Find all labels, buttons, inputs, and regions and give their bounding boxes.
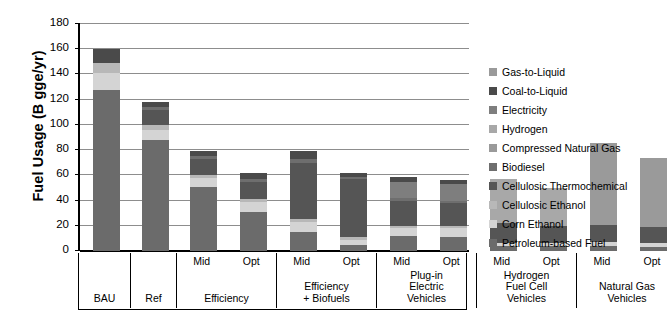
- legend-item-hydrogen[interactable]: Hydrogen: [489, 119, 637, 138]
- x-scenario-label-mid: Mid: [393, 256, 410, 267]
- bar-segment-coal-to-liquid: [93, 49, 120, 63]
- y-tick-mark: [75, 124, 80, 125]
- legend: Gas-to-LiquidCoal-to-LiquidElectricityHy…: [489, 62, 637, 252]
- bar-segment-cellulosic-ethanol: [142, 125, 169, 130]
- legend-swatch-icon: [489, 220, 497, 228]
- x-group-label-line: Ref: [131, 293, 176, 305]
- x-group-label-line: Vehicles: [377, 293, 476, 305]
- bar-segment-corn-ethanol: [93, 73, 120, 89]
- x-scenario-label-mid: Mid: [493, 256, 510, 267]
- bar-segment-petroleum-based-fuel: [190, 187, 217, 251]
- bar-segment-corn-ethanol: [390, 228, 417, 236]
- x-scenario-label-mid: Mid: [293, 256, 310, 267]
- legend-item-compressed-natural-gas[interactable]: Compressed Natural Gas: [489, 138, 637, 157]
- bar-segment-biodiesel: [440, 201, 467, 204]
- x-scenario-label-opt: Opt: [443, 256, 460, 267]
- legend-label: Electricity: [502, 104, 547, 116]
- bar-plug-in-electric-vehicles-opt[interactable]: [440, 180, 467, 251]
- x-group-cell-efficiency: MidOptEfficiency: [177, 253, 277, 308]
- bar-efficiency-opt[interactable]: [240, 173, 267, 251]
- y-tick-label: 180: [23, 16, 69, 28]
- y-tick-label: 60: [23, 167, 69, 179]
- bar-efficiency-biofuels-opt[interactable]: [340, 173, 367, 251]
- legend-swatch-icon: [489, 144, 497, 152]
- x-scenario-row: MidOpt: [577, 254, 671, 269]
- x-group-cell-plug-in-electric-vehicles: MidOptPlug-inElectricVehicles: [377, 253, 477, 308]
- legend-item-cellulosic-thermochemical[interactable]: Cellulosic Thermochemical: [489, 176, 637, 195]
- x-group-label-line: Fuel Cell: [477, 281, 576, 293]
- bar-segment-coal-to-liquid: [440, 180, 467, 184]
- legend-item-biodiesel[interactable]: Biodiesel: [489, 157, 637, 176]
- bar-segment-cellulosic-thermochemical: [640, 227, 667, 243]
- legend-item-corn-ethanol[interactable]: Corn Ethanol: [489, 214, 637, 233]
- bar-segment-cellulosic-ethanol: [290, 219, 317, 222]
- bar-segment-cellulosic-ethanol: [190, 175, 217, 178]
- y-tick-mark: [75, 23, 80, 24]
- legend-item-gas-to-liquid[interactable]: Gas-to-Liquid: [489, 62, 637, 81]
- x-scenario-label-opt: Opt: [644, 256, 661, 267]
- x-axis-label-table: BAURefMidOptEfficiencyMidOptEfficiency+ …: [78, 253, 467, 310]
- bar-segment-petroleum-based-fuel: [142, 140, 169, 251]
- y-tick-label: 100: [23, 117, 69, 129]
- y-tick-mark: [75, 174, 80, 175]
- bar-segment-cellulosic-ethanol: [440, 226, 467, 229]
- x-group-label-line: BAU: [79, 293, 130, 305]
- legend-item-coal-to-liquid[interactable]: Coal-to-Liquid: [489, 81, 637, 100]
- y-tick-label: 20: [23, 218, 69, 230]
- gridline: [80, 99, 469, 100]
- bar-segment-coal-to-liquid: [142, 102, 169, 107]
- legend-label: Cellulosic Ethanol: [502, 199, 585, 211]
- y-tick-label: 140: [23, 66, 69, 78]
- bar-segment-biodiesel: [290, 159, 317, 163]
- y-tick-label: 80: [23, 142, 69, 154]
- x-scenario-label-mid: Mid: [594, 256, 611, 267]
- gridline: [80, 124, 469, 125]
- bar-segment-cellulosic-thermochemical: [142, 110, 169, 125]
- legend-swatch-icon: [489, 68, 497, 76]
- bar-plug-in-electric-vehicles-mid[interactable]: [390, 177, 417, 251]
- bar-efficiency-mid[interactable]: [190, 151, 217, 251]
- bar-segment-coal-to-liquid: [290, 151, 317, 159]
- x-scenario-row: MidOpt: [377, 254, 476, 269]
- legend-item-electricity[interactable]: Electricity: [489, 100, 637, 119]
- bar-segment-petroleum-based-fuel: [640, 247, 667, 251]
- legend-label: Petroleum-based Fuel: [502, 237, 605, 249]
- x-group-label: BAU: [79, 293, 130, 305]
- bar-segment-coal-to-liquid: [190, 151, 217, 156]
- bar-bau[interactable]: [93, 49, 120, 251]
- legend-swatch-icon: [489, 87, 497, 95]
- x-scenario-label-opt: Opt: [243, 256, 260, 267]
- legend-item-cellulosic-ethanol[interactable]: Cellulosic Ethanol: [489, 195, 637, 214]
- legend-swatch-icon: [489, 239, 497, 247]
- legend-swatch-icon: [489, 163, 497, 171]
- y-tick-mark: [75, 73, 80, 74]
- bar-segment-corn-ethanol: [190, 178, 217, 187]
- legend-label: Coal-to-Liquid: [502, 85, 567, 97]
- x-group-label-line: Vehicles: [477, 293, 576, 305]
- bar-segment-petroleum-based-fuel: [340, 245, 367, 251]
- bar-segment-cellulosic-thermochemical: [240, 182, 267, 200]
- legend-swatch-icon: [489, 125, 497, 133]
- x-group-label-line: Electric: [377, 281, 476, 293]
- gridline: [80, 48, 469, 49]
- y-tick-mark: [75, 149, 80, 150]
- legend-label: Hydrogen: [502, 123, 548, 135]
- bar-natural-gas-vehicles-opt[interactable]: [640, 158, 667, 251]
- x-group-label-line: + Biofuels: [277, 293, 376, 305]
- bar-segment-petroleum-based-fuel: [290, 232, 317, 251]
- y-tick-label: 160: [23, 41, 69, 53]
- bar-ref[interactable]: [142, 102, 169, 251]
- bar-segment-biodiesel: [240, 179, 267, 182]
- legend-label: Compressed Natural Gas: [502, 142, 620, 154]
- x-group-label: Plug-inElectricVehicles: [377, 270, 476, 305]
- legend-label: Cellulosic Thermochemical: [502, 180, 627, 192]
- bar-segment-compressed-natural-gas: [640, 158, 667, 227]
- bar-segment-corn-ethanol: [640, 243, 667, 247]
- x-group-label-line: Natural Gas: [577, 281, 671, 293]
- legend-swatch-icon: [489, 182, 497, 190]
- bar-efficiency-biofuels-mid[interactable]: [290, 151, 317, 251]
- bar-segment-coal-to-liquid: [240, 173, 267, 179]
- bar-segment-electricity: [390, 182, 417, 198]
- legend-item-petroleum-based-fuel[interactable]: Petroleum-based Fuel: [489, 233, 637, 252]
- legend-swatch-icon: [489, 106, 497, 114]
